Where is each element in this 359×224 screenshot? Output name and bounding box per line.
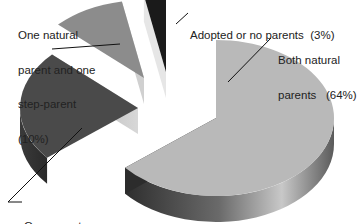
leader-adopted bbox=[176, 13, 188, 24]
label-step-parent: One natural parent and one step-parent (… bbox=[18, 7, 95, 157]
label-both-natural: Both natural parents (64%) bbox=[278, 32, 357, 113]
label-step-parent-line4: (10%) bbox=[18, 134, 95, 146]
label-step-parent-line3: step-parent bbox=[18, 99, 95, 111]
label-step-parent-line2: parent and one bbox=[18, 65, 95, 77]
label-both-natural-line1: Both natural bbox=[278, 55, 357, 67]
label-one-parent: One parent (23%) bbox=[24, 198, 82, 224]
label-both-natural-line2: parents (64%) bbox=[278, 90, 357, 102]
label-step-parent-line1: One natural bbox=[18, 30, 95, 42]
slice-adopted bbox=[144, 0, 166, 98]
label-one-parent-line1: One parent bbox=[24, 221, 82, 224]
